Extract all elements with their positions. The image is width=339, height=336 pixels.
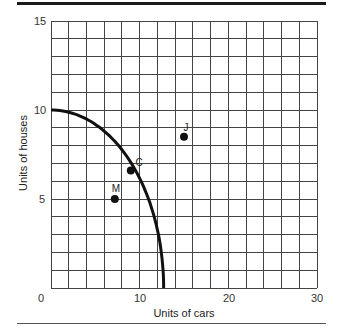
x-axis-label: Units of cars bbox=[153, 307, 215, 319]
x-tick-20: 20 bbox=[223, 292, 235, 304]
grid bbox=[51, 21, 317, 288]
y-tick-15: 15 bbox=[34, 15, 46, 27]
point-label-c: C bbox=[135, 157, 142, 168]
point-label-m: M bbox=[112, 183, 120, 194]
x-tick-10: 10 bbox=[134, 292, 146, 304]
y-tick-10: 10 bbox=[34, 104, 46, 116]
point-label-j: J bbox=[184, 122, 189, 133]
bottom-rule bbox=[17, 323, 326, 324]
y-tick-5: 5 bbox=[39, 193, 45, 205]
point-c bbox=[127, 167, 135, 175]
x-tick-0: 0 bbox=[38, 292, 44, 304]
point-m bbox=[111, 195, 119, 203]
point-j bbox=[180, 133, 188, 141]
top-rule bbox=[17, 2, 326, 5]
y-axis-label: Units of houses bbox=[17, 115, 29, 191]
ppf-chart: 0 10 20 30 5 10 15 Units of cars Units o… bbox=[0, 0, 339, 336]
x-tick-30: 30 bbox=[311, 292, 323, 304]
